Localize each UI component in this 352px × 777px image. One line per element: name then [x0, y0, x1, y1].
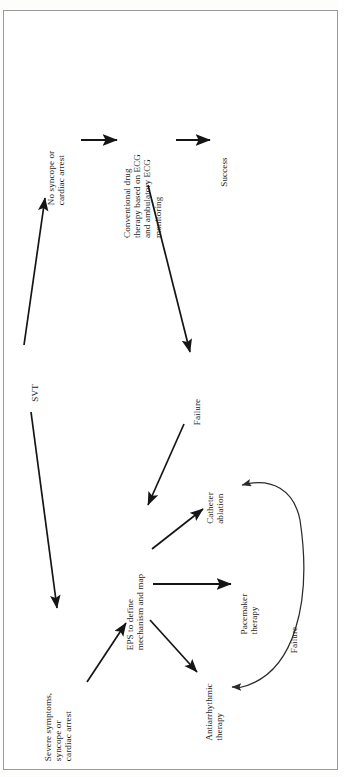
- edge-eps-to-antiarrhythmic: [150, 620, 197, 672]
- edge-eps-to-catheter: [152, 509, 203, 549]
- node-eps: EPS to define mechanism and map: [125, 574, 145, 650]
- node-success: Success: [219, 157, 229, 187]
- edge-label-failure-curve: Failure: [289, 627, 299, 653]
- edge-label-svt: SVT: [30, 384, 40, 401]
- edge-svt-to-no-syncope: [24, 198, 45, 345]
- flowchart-arrows: [0, 0, 352, 777]
- node-severe-symptoms: Severe symptoms, syncope or cardiac arre…: [43, 693, 74, 761]
- edge-svt-to-severe: [31, 412, 57, 608]
- node-no-syncope: No syncope or cardiac arrest: [46, 151, 66, 205]
- figure-container: SVT No syncope or cardiac arrest Convent…: [0, 0, 352, 777]
- node-pacemaker-therapy: Pacemaker therapy: [239, 594, 259, 635]
- edge-label-failure-top: Failure: [192, 399, 202, 425]
- page-edge-bleed: [338, 0, 352, 777]
- node-conventional-drug-therapy: Conventional drug therapy based on ECG a…: [122, 154, 163, 238]
- node-catheter-ablation: Catheter ablation: [205, 492, 225, 524]
- edge-severe-to-eps: [87, 623, 126, 682]
- node-antiarrhythmic-therapy: Antiarrhythmic therapy: [204, 683, 224, 740]
- edge-antiarrhythmic-to-catheter-failure: [232, 483, 304, 688]
